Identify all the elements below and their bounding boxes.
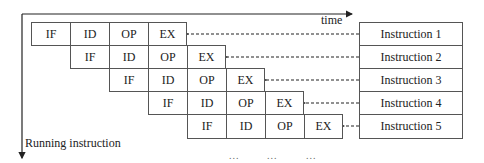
stage-cell-op: OP [148, 45, 188, 69]
stage-cell-ex: EX [187, 45, 226, 69]
stage-cell-ex: EX [148, 22, 187, 46]
running-instruction-label: Running instruction [25, 136, 121, 151]
stage-cell-if: IF [148, 91, 188, 115]
stage-cell-if: IF [187, 114, 227, 139]
stage-cell-op: OP [265, 114, 305, 139]
instruction-box-5: Instruction 5 [359, 114, 463, 139]
continuation-ellipsis-2: ... [267, 150, 278, 161]
stage-cell-op: OP [109, 22, 149, 46]
stage-cell-op: OP [226, 91, 266, 115]
stage-cell-id: ID [226, 114, 266, 139]
stage-cell-ex: EX [265, 91, 304, 115]
continuation-ellipsis-3: ... [306, 150, 317, 161]
stage-cell-if: IF [31, 22, 71, 46]
stage-cell-if: IF [109, 68, 149, 92]
stage-cell-id: ID [70, 22, 110, 46]
stage-cell-id: ID [109, 45, 149, 69]
time-label: time [321, 13, 342, 28]
stage-cell-id: ID [187, 91, 227, 115]
stage-cell-if: IF [70, 45, 110, 69]
instruction-box-4: Instruction 4 [359, 91, 463, 115]
instruction-box-3: Instruction 3 [359, 68, 463, 92]
instruction-box-1: Instruction 1 [359, 22, 463, 46]
stage-cell-id: ID [148, 68, 188, 92]
continuation-ellipsis-1: ... [229, 150, 240, 161]
stage-cell-op: OP [187, 68, 227, 92]
stage-cell-ex: EX [226, 68, 265, 92]
stage-cell-ex: EX [304, 114, 343, 139]
instruction-box-2: Instruction 2 [359, 45, 463, 69]
